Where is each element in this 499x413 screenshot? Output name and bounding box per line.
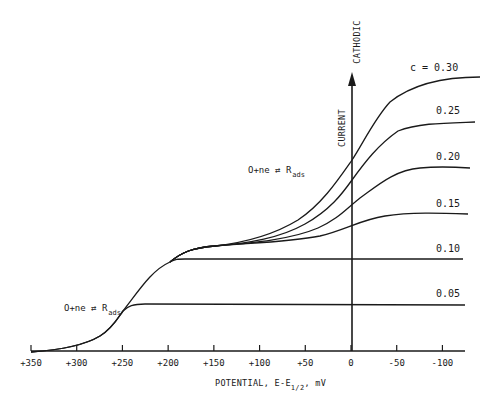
- arrow-up-icon: [348, 72, 356, 86]
- x-tick-label: -100: [432, 358, 454, 368]
- label-c-0.30: c = 0.30: [410, 62, 458, 73]
- x-tick-label: 0: [348, 358, 353, 368]
- x-tick-label: +250: [112, 358, 134, 368]
- curve-c-0.25: [170, 122, 475, 262]
- label-c-0.15: 0.15: [436, 198, 460, 209]
- curve-c-0.15: [170, 213, 468, 262]
- y-axis-label-cathodic: CATHODIC: [352, 20, 362, 63]
- x-axis-tick-labels: +350+300+250+200+150+100+500-50-100: [20, 358, 453, 368]
- x-axis-ticks: [31, 345, 442, 351]
- x-axis-title: POTENTIAL, E-E1/2, mV: [215, 378, 326, 392]
- label-c-0.20: 0.20: [436, 151, 460, 162]
- label-c-0.25: 0.25: [436, 105, 460, 116]
- annotation-upper-wave: O+ne ⇄ Rads: [248, 165, 305, 179]
- x-tick-label: +100: [249, 358, 271, 368]
- y-axis-label-current: CURRENT: [337, 109, 347, 147]
- label-c-0.10: 0.10: [436, 243, 460, 254]
- x-tick-label: +150: [203, 358, 225, 368]
- x-tick-label: +300: [66, 358, 88, 368]
- x-tick-label: +200: [157, 358, 179, 368]
- x-tick-label: +50: [297, 358, 313, 368]
- label-c-0.05: 0.05: [436, 288, 460, 299]
- x-tick-label: +350: [20, 358, 42, 368]
- x-tick-label: -50: [389, 358, 405, 368]
- annotation-lower-wave: O+ne ⇄ Rads: [64, 303, 121, 317]
- chart-canvas: +350+300+250+200+150+100+500-50-100 CURR…: [0, 0, 499, 413]
